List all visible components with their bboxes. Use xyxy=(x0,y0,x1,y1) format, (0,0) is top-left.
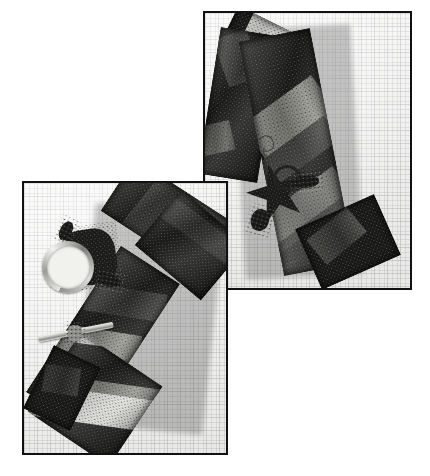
toggle-ring-clasp xyxy=(42,241,94,293)
photo-image-area: Beaded bracelet with silver toggle ring … xyxy=(24,183,226,453)
star-connector-beads xyxy=(292,175,319,190)
clasp-beaded-prong-2 xyxy=(99,273,121,288)
star-lower-beads xyxy=(248,207,271,233)
toggle-bar-bead-loop xyxy=(68,325,82,341)
toggle-ring-hole xyxy=(47,246,90,289)
lower-left-photo: Beaded bracelet with silver toggle ring … xyxy=(22,181,228,455)
upper-right-photo: Beaded bracelet with beaded star toggle … xyxy=(203,11,412,290)
screenshot-canvas: Beaded bracelet with beaded star toggle … xyxy=(0,0,430,476)
photo-image-area: Beaded bracelet with beaded star toggle … xyxy=(205,13,410,288)
wire-hook-tail-icon xyxy=(263,146,273,157)
clasp-beaded-prong xyxy=(56,219,76,242)
